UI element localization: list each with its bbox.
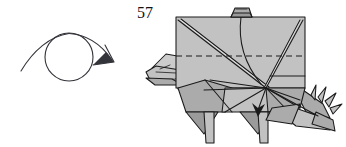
top-tab-fold <box>231 13 252 17</box>
rear-leg <box>258 112 268 143</box>
tail-spike-3 <box>325 93 336 107</box>
origami-dinosaur-model: .p { fill:#c2c2c2; stroke:#1a1a1a; strok… <box>0 0 346 147</box>
diagram-canvas: 57 .p { fill:#c2c2c2; stroke:#1a1a1a; st… <box>0 0 346 147</box>
top-tab <box>231 8 252 17</box>
body-panel <box>176 17 305 88</box>
tail-spike-4 <box>330 104 342 114</box>
front-leg <box>204 112 214 143</box>
